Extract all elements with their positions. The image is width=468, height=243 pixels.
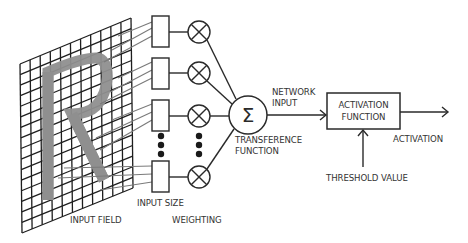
transference-function-node: Σ bbox=[229, 96, 267, 134]
multiply-icon bbox=[188, 105, 210, 127]
sigma-icon: Σ bbox=[242, 103, 255, 127]
input-field-label: INPUT FIELD bbox=[70, 215, 122, 225]
box-to-weight-lines bbox=[169, 32, 188, 177]
transference-label-line1: TRANSFERENCE bbox=[234, 135, 302, 145]
input-box-3 bbox=[152, 100, 169, 131]
activation-function-label-line2: FUNCTION bbox=[342, 112, 386, 122]
network-input-arrow bbox=[267, 110, 326, 120]
input-size-boxes bbox=[152, 16, 169, 192]
input-size-label: INPUT SIZE bbox=[137, 198, 184, 208]
activation-output-label: ACTIVATION bbox=[393, 134, 443, 144]
neuron-diagram: Σ INPUT FIELD INPUT SIZE WEIGHTING TRANS… bbox=[0, 0, 468, 243]
activation-output-arrow bbox=[400, 107, 448, 117]
multiply-icon bbox=[188, 21, 210, 43]
network-input-label-line1: NETWORK bbox=[272, 87, 316, 97]
multiply-icon bbox=[188, 166, 210, 188]
threshold-value-label: THRESHOLD VALUE bbox=[325, 173, 408, 183]
transference-label-line2: FUNCTION bbox=[235, 146, 279, 156]
threshold-arrow bbox=[358, 130, 368, 167]
input-box-1 bbox=[152, 16, 169, 47]
input-box-2 bbox=[152, 58, 169, 89]
weighting-multipliers bbox=[188, 21, 210, 188]
input-ellipsis-icon bbox=[158, 133, 164, 157]
network-input-label-line2: INPUT bbox=[272, 98, 298, 108]
weighting-label: WEIGHTING bbox=[172, 215, 222, 225]
activation-function-label-line1: ACTIVATION bbox=[338, 100, 388, 110]
activation-function-box bbox=[327, 93, 400, 129]
multiply-icon bbox=[188, 62, 210, 84]
input-box-4 bbox=[152, 161, 169, 192]
weight-ellipsis-icon bbox=[196, 133, 202, 157]
